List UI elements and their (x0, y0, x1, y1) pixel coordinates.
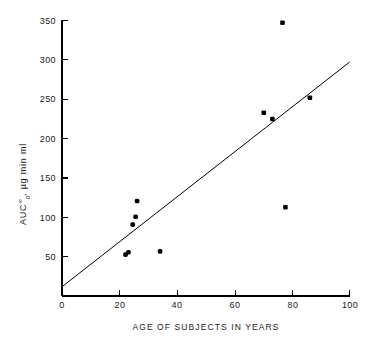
x-axis-tick-labels: 0 20 40 60 80 100 (59, 300, 358, 310)
data-point (283, 205, 288, 210)
y-axis-title-text: AUC∞0, µg min ml (17, 143, 31, 225)
y-axis-title-superscript: ∞ (17, 199, 23, 203)
x-tick-label-20: 20 (115, 300, 126, 310)
y-axis-ticks (62, 20, 68, 257)
data-point (130, 222, 135, 227)
scatter-plot-figure: 350 300 250 200 150 100 50 0 20 40 60 80… (0, 0, 365, 343)
data-points-group (123, 21, 312, 257)
y-axis-title-base: AUC (18, 204, 28, 225)
x-tick-label-60: 60 (230, 300, 241, 310)
x-tick-label-40: 40 (172, 300, 183, 310)
y-tick-label-300: 300 (40, 55, 56, 65)
x-tick-label-0: 0 (59, 300, 64, 310)
data-point (133, 214, 138, 219)
y-axis-title-units: , µg min ml (18, 143, 28, 196)
data-point (158, 249, 163, 254)
y-tick-label-50: 50 (45, 252, 56, 262)
y-tick-label-350: 350 (40, 16, 56, 26)
data-point (262, 110, 267, 115)
data-point (126, 250, 131, 255)
data-point (135, 199, 140, 204)
y-tick-label-100: 100 (40, 213, 56, 223)
chart-svg: 350 300 250 200 150 100 50 0 20 40 60 80… (0, 0, 365, 343)
x-axis-ticks (62, 290, 349, 296)
plot-axes (62, 20, 350, 296)
y-tick-label-200: 200 (40, 134, 56, 144)
data-point (280, 21, 285, 26)
y-axis-tick-labels: 350 300 250 200 150 100 50 (40, 16, 56, 263)
x-tick-label-80: 80 (288, 300, 299, 310)
x-tick-label-100: 100 (342, 300, 358, 310)
x-axis-title: AGE OF SUBJECTS IN YEARS (132, 322, 279, 332)
regression-line (62, 62, 349, 287)
y-tick-label-250: 250 (40, 94, 56, 104)
y-tick-label-150: 150 (40, 173, 56, 183)
y-axis-title: AUC∞0, µg min ml (17, 143, 31, 225)
data-point (308, 95, 313, 100)
data-point (270, 117, 275, 122)
